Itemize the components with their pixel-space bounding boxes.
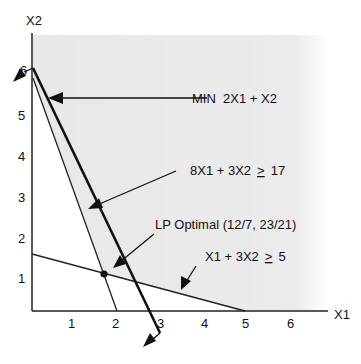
lp-optimal-label: LP Optimal (12/7, 23/21) <box>155 217 296 232</box>
x2-axis-label: X2 <box>26 13 42 28</box>
y-tick-5: 5 <box>18 108 25 123</box>
y-tick-3: 3 <box>18 190 25 205</box>
lp-diagram: X2 X1 1 2 3 4 5 6 1 2 3 4 5 6 MIN 2X1 + … <box>0 0 361 364</box>
x-tick-1: 1 <box>68 316 75 331</box>
x-tick-2: 2 <box>112 316 119 331</box>
constraint1-label: 8X1 + 3X2>17 <box>190 163 285 178</box>
objective-label: MIN 2X1 + X2 <box>192 91 277 106</box>
x-tick-4: 4 <box>201 316 208 331</box>
feasible-region <box>33 35 330 311</box>
y-tick-2: 2 <box>18 231 25 246</box>
x-tick-6: 6 <box>287 316 294 331</box>
lp-optimal-point <box>100 270 107 277</box>
x-tick-5: 5 <box>242 316 249 331</box>
y-tick-1: 1 <box>18 271 25 286</box>
x1-axis-label: X1 <box>334 307 350 322</box>
objective-arrowhead-bottom <box>143 333 156 347</box>
y-tick-4: 4 <box>18 149 25 164</box>
